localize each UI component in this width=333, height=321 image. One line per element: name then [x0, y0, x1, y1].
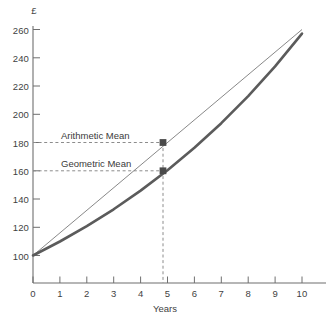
x-tick-label-3: 3: [104, 288, 124, 299]
series-geometric-mean-curve: [33, 34, 302, 256]
annotation-label-arithmetic-mean: Arithmetic Mean: [61, 130, 130, 141]
x-tick-label-2: 2: [77, 288, 97, 299]
y-tick-label-120: 120: [0, 222, 29, 233]
chart-container: £ 260 240 220 200 180 160 140 120 100 0 …: [0, 0, 333, 321]
y-tick-label-200: 200: [0, 109, 29, 120]
y-tick-label-180: 180: [0, 138, 29, 149]
x-tick-label-1: 1: [50, 288, 70, 299]
y-tick-label-140: 140: [0, 194, 29, 205]
data-point-arithmetic-mean: [160, 139, 167, 146]
data-point-geometric-mean: [160, 167, 167, 174]
chart-canvas: [0, 0, 333, 321]
annotation-label-geometric-mean: Geometric Mean: [61, 158, 131, 169]
x-tick-label-7: 7: [211, 288, 231, 299]
y-tick-label-220: 220: [0, 81, 29, 92]
y-tick-label-260: 260: [0, 25, 29, 36]
x-tick-label-0: 0: [23, 288, 43, 299]
x-tick-label-10: 10: [292, 288, 312, 299]
x-tick-label-6: 6: [184, 288, 204, 299]
x-axis-title: Years: [135, 303, 195, 314]
x-tick-label-5: 5: [158, 288, 178, 299]
y-tick-label-160: 160: [0, 166, 29, 177]
x-tick-label-9: 9: [265, 288, 285, 299]
y-tick-label-100: 100: [0, 251, 29, 262]
x-axis-ticks: [33, 277, 302, 284]
x-tick-label-8: 8: [238, 288, 258, 299]
y-axis-title: £: [25, 5, 43, 16]
y-tick-label-240: 240: [0, 53, 29, 64]
x-tick-label-4: 4: [131, 288, 151, 299]
